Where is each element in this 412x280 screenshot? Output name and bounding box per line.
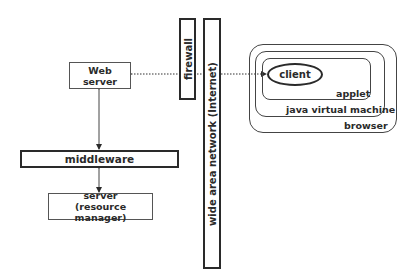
client-node: client <box>267 63 323 86</box>
browser-label: browser <box>344 120 388 131</box>
firewall-label: firewall <box>182 38 193 80</box>
client-label: client <box>279 69 310 80</box>
wan-node: wide area network (Internet) <box>203 18 221 269</box>
web-server-label-line2: server <box>83 76 117 87</box>
wan-label: wide area network (Internet) <box>207 62 218 226</box>
jvm-label: java virtual machine <box>286 104 395 115</box>
middleware-node: middleware <box>20 150 179 168</box>
firewall-node: firewall <box>179 18 196 100</box>
architecture-diagram: Web server firewall wide area network (I… <box>0 0 412 280</box>
server-node: server (resource manager) <box>48 193 153 220</box>
web-server-label-line1: Web <box>88 65 111 76</box>
web-server-node: Web server <box>69 62 131 89</box>
server-label-line1: server <box>83 190 117 201</box>
server-label-line2: (resource manager) <box>49 201 152 223</box>
applet-label: applet <box>336 88 370 99</box>
middleware-label: middleware <box>65 154 134 165</box>
